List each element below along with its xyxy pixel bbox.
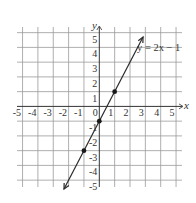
equation-label: y = 2x − 1	[137, 42, 180, 53]
y-tick-label: -5	[89, 181, 97, 192]
data-point	[97, 119, 102, 124]
x-tick-label: 4	[154, 107, 159, 118]
y-tick-label: 4	[92, 48, 97, 59]
y-tick-label: 2	[92, 78, 97, 89]
y-tick-label: -3	[89, 152, 97, 163]
data-point	[82, 148, 87, 153]
x-tick-label: 2	[124, 107, 129, 118]
x-tick-label: 0	[93, 107, 98, 118]
x-tick-label: 1	[108, 107, 113, 118]
data-point	[112, 89, 117, 94]
x-tick-label: 5	[170, 107, 175, 118]
tick-labels: -5-4-3-2-1012345-5-4-3-2-112345	[13, 34, 175, 193]
y-axis-label: y	[91, 19, 97, 31]
x-axis-label: x	[183, 99, 189, 111]
x-tick-label: -1	[74, 107, 82, 118]
y-tick-label: 5	[92, 34, 97, 45]
x-tick-label: -3	[43, 107, 51, 118]
x-tick-label: 3	[139, 107, 144, 118]
y-tick-label: 3	[92, 63, 97, 74]
x-tick-label: -5	[13, 107, 21, 118]
y-tick-label: -4	[89, 166, 97, 177]
x-tick-label: -2	[59, 107, 67, 118]
coordinate-plane-chart: -5-4-3-2-1012345-5-4-3-2-112345 x y y = …	[0, 0, 196, 203]
y-tick-label: 1	[92, 93, 97, 104]
x-tick-label: -4	[28, 107, 36, 118]
